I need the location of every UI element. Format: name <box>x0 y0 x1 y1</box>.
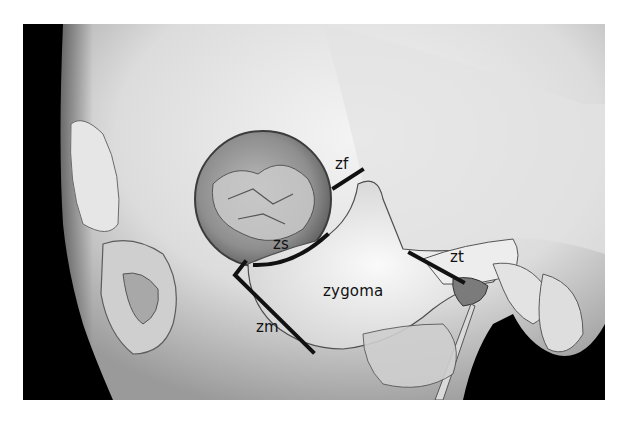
skull-rendering <box>23 24 605 400</box>
label-zt: zt <box>450 250 464 265</box>
label-zf: zf <box>335 157 349 172</box>
label-zs: zs <box>273 237 289 252</box>
label-zm: zm <box>256 320 279 335</box>
label-zygoma: zygoma <box>323 284 383 299</box>
skull-ct-image: zf zs zt zm zygoma <box>23 24 605 400</box>
